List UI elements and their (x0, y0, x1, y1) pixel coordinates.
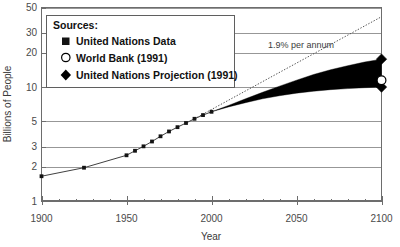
data-point (193, 117, 197, 121)
data-point (210, 110, 214, 114)
data-point (82, 166, 86, 170)
data-point (184, 121, 188, 125)
legend-item-un-projection: United Nations Projection (1991) (76, 69, 238, 81)
x-tick-label: 2000 (200, 213, 223, 224)
chart-figure: 19001950200020502100 123510203050 Year B… (0, 0, 400, 247)
data-point (150, 140, 154, 144)
open-circle-marker-icon (62, 53, 70, 61)
y-tick-label: 50 (26, 2, 38, 13)
population-projection-chart: 19001950200020502100 123510203050 Year B… (0, 0, 400, 247)
y-tick-label: 5 (31, 116, 37, 127)
x-axis-ticks (43, 196, 383, 205)
x-axis-tick-labels: 19001950200020502100 (30, 213, 393, 224)
x-axis-title: Year (201, 231, 222, 242)
y-axis-ticks (42, 9, 46, 202)
legend-title: Sources: (53, 19, 98, 31)
world-bank-marker (377, 76, 386, 85)
x-tick-label: 2100 (370, 213, 393, 224)
data-point (142, 144, 146, 148)
data-point (125, 153, 129, 157)
y-tick-label: 1 (31, 196, 37, 207)
y-axis-title: Billions of People (2, 65, 13, 142)
data-point (201, 113, 205, 117)
legend-item-un-data: United Nations Data (76, 35, 176, 47)
x-tick-label: 2050 (285, 213, 308, 224)
x-tick-label: 1950 (115, 213, 138, 224)
y-tick-label: 10 (26, 82, 38, 93)
y-axis-tick-labels: 123510203050 (26, 2, 38, 207)
square-marker-icon (62, 38, 70, 46)
trend-annotation-label: 1.9% per annum (268, 40, 334, 50)
data-point (176, 125, 180, 129)
legend-item-world-bank: World Bank (1991) (76, 52, 167, 64)
x-tick-label: 1900 (30, 213, 53, 224)
y-tick-label: 30 (26, 27, 38, 38)
data-point (133, 149, 137, 153)
data-point (159, 134, 163, 138)
legend: Sources: United Nations Data World Bank … (47, 16, 238, 88)
y-tick-label: 2 (31, 161, 37, 172)
world-bank-point (377, 76, 386, 85)
projection-band (212, 59, 382, 112)
y-tick-label: 20 (26, 47, 38, 58)
data-point (167, 130, 171, 134)
y-tick-label: 3 (31, 141, 37, 152)
data-point (40, 174, 44, 178)
